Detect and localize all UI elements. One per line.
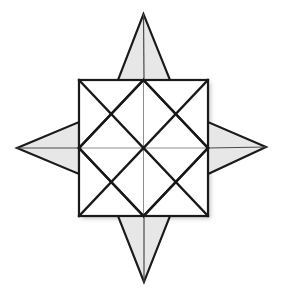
star-figure-svg — [0, 0, 283, 296]
figure-canvas — [0, 0, 283, 296]
north-spike-spine — [144, 14, 145, 80]
